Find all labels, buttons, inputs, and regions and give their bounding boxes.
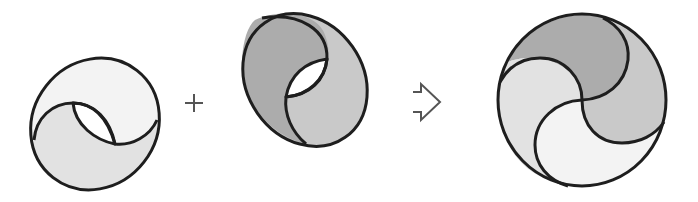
- diagram-canvas: Two ring-like ellipse halves combine to …: [0, 0, 698, 202]
- shape-a: [4, 32, 185, 202]
- result-arrow-icon: [413, 84, 440, 120]
- shape-result: [498, 14, 666, 187]
- shape-b: [217, 0, 392, 171]
- plus-icon: [185, 94, 203, 112]
- diagram-svg: [0, 0, 698, 202]
